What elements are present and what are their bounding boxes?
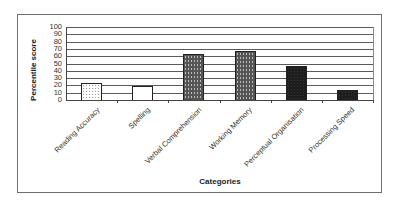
gridline: [66, 34, 373, 35]
y-tick-label: 20: [42, 81, 62, 89]
x-tick: [117, 100, 118, 103]
x-tick: [168, 100, 169, 103]
bar-verbal-comprehension: [183, 54, 204, 101]
y-tick-label: 80: [42, 38, 62, 46]
gridline: [66, 78, 373, 79]
x-axis-title: Categories: [199, 177, 240, 186]
y-tick-label: 70: [42, 45, 62, 53]
plot-right-border: [373, 27, 374, 100]
gridline: [66, 85, 373, 86]
bar-spelling: [132, 86, 153, 101]
bar-working-memory: [235, 51, 256, 101]
y-tick-label: 0: [42, 96, 62, 104]
gridline: [66, 64, 373, 65]
x-tick: [220, 100, 221, 103]
y-axis-title: Percentile score: [29, 39, 38, 101]
gridline: [66, 27, 373, 28]
gridline: [66, 56, 373, 57]
bar-reading-accuracy: [81, 83, 102, 101]
y-axis: [66, 27, 67, 100]
y-tick-label: 30: [42, 74, 62, 82]
gridline: [66, 93, 373, 94]
y-tick-label: 40: [42, 67, 62, 75]
y-tick-label: 100: [42, 23, 62, 31]
y-tick-label: 90: [42, 30, 62, 38]
x-tick: [271, 100, 272, 103]
gridline: [66, 42, 373, 43]
gridline: [66, 49, 373, 50]
bar-perceptual-organisation: [286, 66, 307, 101]
x-tick: [322, 100, 323, 103]
y-tick-label: 10: [42, 89, 62, 97]
y-tick-label: 60: [42, 52, 62, 60]
x-tick: [373, 100, 374, 103]
gridline: [66, 71, 373, 72]
y-tick-label: 50: [42, 60, 62, 68]
